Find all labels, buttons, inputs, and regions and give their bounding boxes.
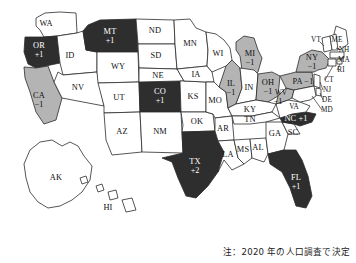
state-DE[interactable] bbox=[316, 88, 321, 96]
state-delta-TX: +2 bbox=[191, 166, 200, 175]
state-label-HI: HI bbox=[103, 203, 112, 212]
state-label-SD: SD bbox=[151, 51, 162, 60]
state-label-ND: ND bbox=[149, 26, 161, 35]
state-label-WY: WY bbox=[111, 62, 125, 71]
state-label-VT: VT bbox=[311, 36, 321, 44]
state-label-NE: NE bbox=[152, 71, 163, 80]
state-label-CO: CO bbox=[154, 87, 166, 96]
state-delta-CO: +1 bbox=[156, 96, 165, 105]
state-label-MN: MN bbox=[183, 39, 197, 48]
state-label-NY: NY bbox=[306, 53, 318, 62]
state-label-MO: MO bbox=[208, 96, 222, 105]
state-HI-4[interactable] bbox=[122, 198, 136, 212]
state-label-AL: AL bbox=[252, 143, 263, 152]
state-label-TN: TN bbox=[244, 115, 255, 124]
state-label-NJ: NJ bbox=[323, 86, 331, 94]
state-label-DE: DE bbox=[322, 96, 332, 104]
state-label-AR: AR bbox=[217, 124, 229, 133]
state-label-SC: SC bbox=[288, 128, 299, 137]
state-label-MS: MS bbox=[237, 145, 250, 154]
state-label-MD: MD bbox=[321, 106, 333, 114]
state-label-MT: MT bbox=[104, 27, 117, 36]
state-label-ME: ME bbox=[332, 36, 343, 44]
state-label-FL: FL bbox=[291, 173, 301, 182]
state-label-AK: AK bbox=[50, 173, 62, 182]
state-delta-CA: −1 bbox=[35, 100, 44, 109]
state-HI[interactable] bbox=[80, 176, 88, 184]
state-label-IA: IA bbox=[191, 70, 200, 79]
state-label-NV: NV bbox=[72, 83, 84, 92]
state-CT[interactable] bbox=[328, 59, 336, 66]
state-delta-OH: −1 bbox=[264, 87, 273, 96]
state-label-NM: NM bbox=[153, 127, 167, 136]
state-label-CT: CT bbox=[324, 76, 334, 84]
state-delta-NY: −1 bbox=[308, 62, 317, 71]
state-delta-MI: −1 bbox=[246, 58, 255, 67]
state-delta-OR: +1 bbox=[35, 50, 44, 59]
state-label-OH: OH bbox=[262, 78, 274, 87]
state-label-WA: WA bbox=[39, 19, 52, 28]
state-label-WV: WV bbox=[275, 89, 288, 97]
state-label-PA: PA −1 bbox=[293, 77, 314, 86]
leader-line-MD bbox=[312, 96, 322, 110]
state-label-KY: KY bbox=[244, 105, 256, 114]
map-svg: WA OR +1 CA −1 ID NV MT +1 WY UT AZ CO +… bbox=[0, 0, 356, 240]
figure-caption: 注：2020 年の人口調査で決定 bbox=[223, 245, 350, 257]
state-label-KS: KS bbox=[188, 92, 199, 101]
state-NJ[interactable] bbox=[314, 74, 320, 88]
state-label-VA: VA bbox=[289, 103, 299, 111]
state-label-GA: GA bbox=[269, 129, 281, 138]
state-label-OR: OR bbox=[33, 41, 45, 50]
state-label-NH: NH bbox=[339, 46, 350, 54]
state-label-LA: LA bbox=[222, 150, 233, 159]
state-label-AZ: AZ bbox=[116, 127, 127, 136]
state-delta-MT: +1 bbox=[106, 36, 115, 45]
state-label-IN: IN bbox=[244, 83, 253, 92]
state-label-NC: NC +1 bbox=[284, 114, 307, 123]
state-label-IL: IL bbox=[227, 79, 235, 88]
state-delta-WV: −1 bbox=[274, 97, 283, 106]
state-delta-IL: −1 bbox=[227, 88, 236, 97]
us-apportionment-map: WA OR +1 CA −1 ID NV MT +1 WY UT AZ CO +… bbox=[0, 0, 356, 263]
state-FL[interactable] bbox=[268, 150, 312, 208]
state-label-ID: ID bbox=[65, 51, 74, 60]
state-delta-FL: +1 bbox=[292, 182, 301, 191]
state-HI-3[interactable] bbox=[108, 190, 118, 200]
state-label-CA: CA bbox=[33, 91, 45, 100]
state-label-UT: UT bbox=[113, 93, 124, 102]
state-label-TX: TX bbox=[189, 157, 200, 166]
state-label-MI: MI bbox=[245, 49, 256, 58]
state-HI-2[interactable] bbox=[96, 184, 104, 192]
state-label-WI: WI bbox=[213, 49, 224, 58]
state-label-OK: OK bbox=[191, 117, 203, 126]
